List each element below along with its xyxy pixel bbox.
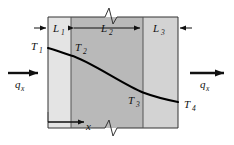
x-axis-label: x (85, 120, 91, 132)
temperature-T1-subscript: 1 (39, 46, 43, 55)
temperature-T4-subscript: 4 (192, 104, 196, 113)
temperature-T3-label: T (128, 94, 135, 106)
layer-L2-subscript: 2 (109, 28, 113, 37)
qx-left-subscript: x (20, 84, 25, 93)
temperature-T4-label: T (184, 98, 191, 110)
layer-L1-label: L (52, 22, 59, 34)
qx-right-subscript: x (205, 84, 210, 93)
layer-L1-slab (48, 17, 71, 128)
temperature-T2-label: T (75, 41, 82, 53)
layer-L2-label: L (100, 22, 107, 34)
composite-wall-diagram: L 1 L 2 L 3 T 1 T 2 T 3 T 4 q x q x (0, 0, 234, 145)
temperature-T3-subscript: 3 (135, 100, 140, 109)
temperature-T1-label: T (31, 40, 38, 52)
layer-L3-label: L (152, 22, 159, 34)
layer-L1-subscript: 1 (61, 28, 65, 37)
layer-L3-subscript: 3 (160, 28, 165, 37)
temperature-T2-subscript: 2 (83, 47, 87, 56)
